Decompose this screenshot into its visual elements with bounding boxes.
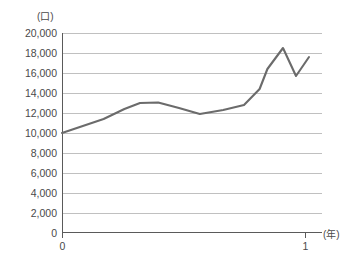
axes-group xyxy=(62,33,322,238)
y-tick-label-10000: 10,000 xyxy=(25,127,57,139)
gridlines-group xyxy=(62,33,322,213)
y-tick-label-18000: 18,000 xyxy=(25,47,57,59)
line-chart: 20,000 18,000 16,000 14,000 12,000 10,00… xyxy=(0,0,346,265)
x-tick-label-0: 0 xyxy=(60,240,66,252)
y-tick-label-16000: 16,000 xyxy=(25,67,57,79)
y-tick-label-8000: 8,000 xyxy=(31,147,57,159)
x-tick-label-1: 1 xyxy=(303,240,309,252)
x-axis-unit-label: (年) xyxy=(323,228,340,240)
y-tick-label-14000: 14,000 xyxy=(25,87,57,99)
y-axis-unit-label: (口) xyxy=(37,11,54,22)
y-tick-label-4000: 4,000 xyxy=(31,187,57,199)
y-tick-labels-group: 20,000 18,000 16,000 14,000 12,000 10,00… xyxy=(25,27,57,239)
y-tick-label-12000: 12,000 xyxy=(25,107,57,119)
y-tick-label-0: 0 xyxy=(51,227,57,239)
y-tick-label-20000: 20,000 xyxy=(25,27,57,39)
y-tick-label-2000: 2,000 xyxy=(31,207,57,219)
y-tick-label-6000: 6,000 xyxy=(31,167,57,179)
x-tick-labels-group: 0 1 xyxy=(60,240,309,252)
series-line xyxy=(62,48,309,133)
chart-canvas: 20,000 18,000 16,000 14,000 12,000 10,00… xyxy=(0,0,346,265)
